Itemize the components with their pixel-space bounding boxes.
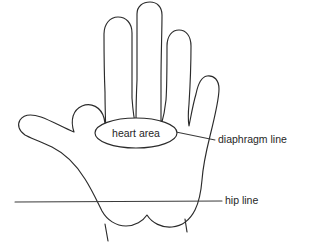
hand-diagram-figure: heart area diaphragm line hip line [0, 0, 313, 250]
heart-area-label: heart area [112, 127, 160, 139]
hip-line-rule [15, 201, 222, 202]
hip-line-label: hip line [225, 194, 258, 206]
wrist-mark-left [105, 224, 108, 241]
diaphragm-line-label: diaphragm line [218, 133, 287, 145]
diaphragm-line-rule [176, 132, 215, 140]
hand-diagram-canvas: heart area diaphragm line hip line [0, 0, 313, 250]
hand-outline [19, 2, 219, 227]
